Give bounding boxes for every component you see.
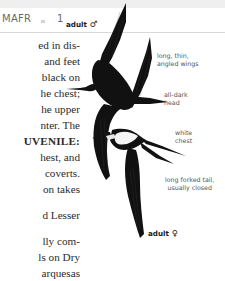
label-chest-line1: white [175,129,192,137]
label-chest-line2: chest [175,137,192,145]
label-tail-line1: long forked tail, [165,176,214,184]
label-head: all-dark head [164,91,188,107]
label-wings: long, thin, angled wings [157,52,199,68]
label-head-line1: all-dark [164,91,188,99]
label-wings-line1: long, thin, [157,52,199,60]
male-symbol-icon: ♂ [90,19,98,29]
label-adult-female: adult ♀ [148,228,178,238]
text-line: arquesas [0,265,80,281]
label-adult-female-text: adult [148,229,169,238]
label-adult-male-text: adult [66,20,87,29]
label-adult-male: adult ♂ [66,19,97,29]
label-tail: long forked tail, usually closed [165,176,214,192]
label-tail-line2: usually closed [165,184,214,192]
text-line: ls on Dry [0,249,80,265]
label-chest: white chest [175,129,192,145]
female-symbol-icon: ♀ [172,228,178,238]
label-wings-line2: angled wings [157,60,199,68]
label-head-line2: head [164,99,188,107]
